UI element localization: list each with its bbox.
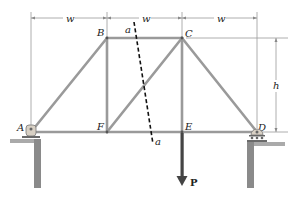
joint-label-B: B: [96, 27, 104, 38]
joint-label-C: C: [185, 28, 193, 39]
member-FC: [107, 38, 182, 132]
span-label-1: w: [66, 13, 75, 24]
roller-support-D: [247, 129, 285, 188]
joint-label-E: E: [184, 121, 193, 132]
section-label-bottom: a: [155, 136, 161, 147]
truss-diagram: w w w h a a A B C D E F: [0, 0, 290, 199]
member-CD: [182, 38, 257, 132]
section-label-top: a: [125, 24, 131, 35]
load-arrow-P: [177, 133, 188, 186]
span-label-3: w: [217, 13, 226, 24]
span-label-2: w: [142, 13, 151, 24]
dimension-lines: [31, 12, 288, 132]
truss-members: [31, 38, 257, 132]
joint-label-F: F: [96, 121, 105, 132]
load-label-P: P: [190, 177, 198, 188]
member-AB: [31, 38, 107, 132]
height-label: h: [273, 80, 279, 91]
section-cut-line: [134, 22, 153, 144]
pin-support-A: [10, 125, 41, 188]
joint-label-A: A: [16, 122, 24, 133]
